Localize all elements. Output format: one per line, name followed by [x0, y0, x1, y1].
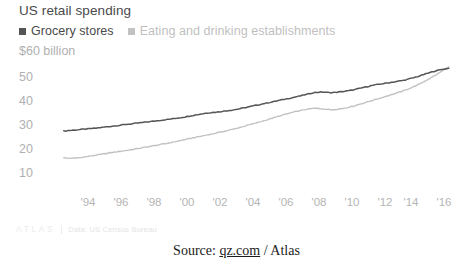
source-suffix: / Atlas: [260, 243, 300, 258]
x-axis-tick-label: '12: [378, 196, 393, 208]
page-title: US retail spending: [19, 3, 131, 18]
x-axis-tick-label: '94: [81, 196, 96, 208]
x-axis-tick-label: '14: [404, 196, 419, 208]
x-axis-tick-label: '08: [312, 196, 327, 208]
y-axis-tick-label: 40: [19, 94, 59, 108]
x-axis-tick-label: '02: [213, 196, 228, 208]
legend-swatch-icon: [128, 28, 135, 35]
legend-swatch-icon: [19, 28, 26, 35]
series-eating-and-drinking: [64, 67, 449, 159]
x-axis-tick-label: '98: [147, 196, 162, 208]
legend-label: Grocery stores: [31, 24, 114, 38]
x-axis-tick-label: '96: [114, 196, 129, 208]
legend-item-eating-and-drinking: Eating and drinking establishments: [128, 24, 336, 38]
source-caption: Source: qz.com / Atlas: [0, 243, 473, 259]
y-axis-tick-label: 30: [19, 118, 59, 132]
credit-divider: [61, 225, 62, 234]
series-grocery-stores: [64, 68, 449, 131]
source-link[interactable]: qz.com: [219, 243, 260, 258]
chart-credit: ATLAS Data: US Census Bureau: [16, 224, 157, 234]
source-prefix: Source:: [173, 243, 219, 258]
x-axis-tick-label: '00: [180, 196, 195, 208]
chart-legend: Grocery stores Eating and drinking estab…: [19, 24, 335, 38]
atlas-wordmark: ATLAS: [16, 224, 55, 234]
x-axis-tick-label: '16: [437, 196, 452, 208]
data-source-label: Data: US Census Bureau: [68, 225, 157, 234]
y-axis-tick-label: 20: [19, 142, 59, 156]
x-axis-tick-label: '10: [345, 196, 360, 208]
x-axis-tick-label: '06: [279, 196, 294, 208]
legend-item-grocery-stores: Grocery stores: [19, 24, 114, 38]
chart-card: US retail spending Grocery stores Eating…: [0, 0, 473, 240]
x-axis-tick-label: '04: [246, 196, 261, 208]
y-axis-tick-label: $60 billion: [19, 44, 75, 58]
legend-label: Eating and drinking establishments: [140, 24, 336, 38]
y-axis-tick-label: 10: [19, 166, 59, 180]
y-axis-tick-label: 50: [19, 70, 59, 84]
